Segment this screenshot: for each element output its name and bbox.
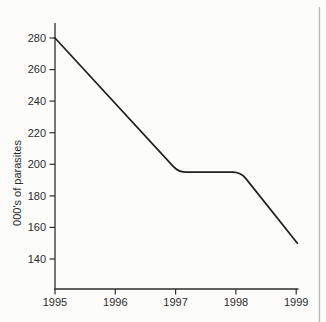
x-axis: 19951996199719981999 — [43, 289, 309, 308]
y-tick-label: 220 — [28, 127, 46, 139]
y-tick-label: 240 — [28, 95, 46, 107]
y-axis: 140160180200220240260280 000's of parasi… — [11, 23, 55, 290]
x-tick-label: 1995 — [43, 296, 67, 308]
y-tick-label: 260 — [28, 63, 46, 75]
y-tick-label: 280 — [28, 32, 46, 44]
parasite-series-line — [55, 38, 297, 243]
x-tick-label: 1996 — [103, 296, 127, 308]
y-axis-title: 000's of parasites — [11, 140, 23, 226]
y-axis-ticks: 140160180200220240260280 — [28, 32, 55, 265]
line-chart: 140160180200220240260280 000's of parasi… — [0, 0, 326, 322]
x-axis-ticks: 19951996199719981999 — [43, 289, 309, 308]
y-tick-label: 160 — [28, 221, 46, 233]
y-tick-label: 180 — [28, 190, 46, 202]
y-tick-label: 140 — [28, 253, 46, 265]
parasite-trend-figure: 140160180200220240260280 000's of parasi… — [0, 0, 326, 322]
x-tick-label: 1999 — [284, 296, 308, 308]
x-tick-label: 1997 — [163, 296, 187, 308]
y-tick-label: 200 — [28, 158, 46, 170]
x-tick-label: 1998 — [224, 296, 248, 308]
